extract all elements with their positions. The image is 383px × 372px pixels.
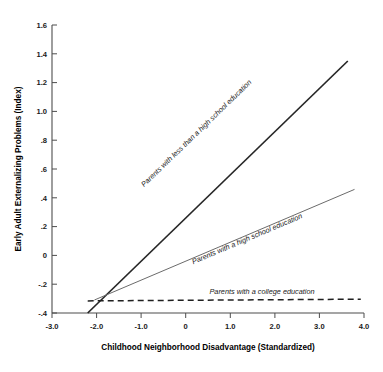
- x-tick-label: -2.0: [90, 322, 103, 331]
- series-line-less-than-high-school: [88, 61, 348, 313]
- x-tick-label: 0: [184, 322, 188, 331]
- x-tick-label: 2.0: [270, 322, 281, 331]
- x-axis-tickmarks: [52, 313, 364, 318]
- y-tick-label: 1.2: [36, 78, 47, 87]
- y-axis-ticklabels: 1.6 1.4 1.2 1.0 .8 .6 .4 .2 0 -.2 -.4: [36, 21, 47, 318]
- x-tick-label: -3.0: [45, 322, 58, 331]
- y-tick-label: .6: [41, 165, 47, 174]
- y-axis-tickmarks: [52, 25, 57, 313]
- x-axis-title: Childhood Neighborhood Disadvantage (Sta…: [101, 343, 315, 352]
- series-label-less-than-high-school: Parents with less than a high school edu…: [139, 78, 253, 189]
- y-tick-label: .4: [41, 194, 48, 203]
- y-axis-title: Early Adult Externalizing Problems (Inde…: [14, 86, 23, 251]
- y-tick-label: 1.4: [36, 50, 47, 59]
- x-tick-label: 4.0: [359, 322, 370, 331]
- y-tick-label: .2: [41, 222, 47, 231]
- y-tick-label: -.4: [38, 309, 48, 318]
- series-label-high-school: Parents with a high school education: [191, 211, 304, 266]
- x-axis-ticklabels: -3.0 -2.0 -1.0 0 1.0 2.0 3.0 4.0: [45, 322, 369, 331]
- x-tick-label: 1.0: [225, 322, 236, 331]
- y-tick-label: .8: [41, 136, 47, 145]
- line-chart: 1.6 1.4 1.2 1.0 .8 .6 .4 .2 0 -.2 -.4 -3…: [0, 0, 383, 372]
- series-label-college: Parents with a college education: [209, 287, 314, 296]
- y-tick-label: 1.6: [36, 21, 47, 30]
- x-tick-label: -1.0: [135, 322, 148, 331]
- y-tick-label: 0: [43, 251, 47, 260]
- y-tick-label: -.2: [38, 280, 47, 289]
- y-tick-label: 1.0: [36, 107, 47, 116]
- chart-figure: 1.6 1.4 1.2 1.0 .8 .6 .4 .2 0 -.2 -.4 -3…: [0, 0, 383, 372]
- x-tick-label: 3.0: [314, 322, 325, 331]
- series-line-college: [88, 299, 361, 301]
